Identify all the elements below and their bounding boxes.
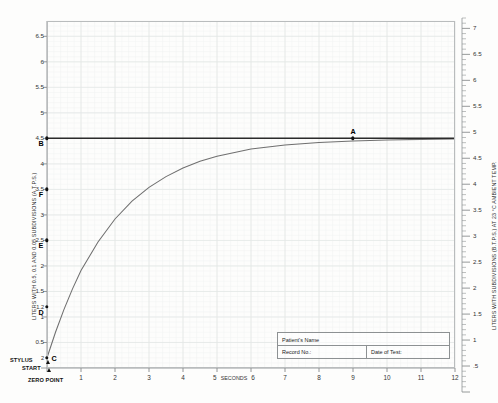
date-of-test-field[interactable]: Date of Test:	[367, 346, 449, 359]
form-row-name: Patient's Name	[278, 333, 449, 346]
record-no-field[interactable]: Record No.:	[278, 346, 367, 359]
data-point-e	[45, 239, 48, 242]
data-point-f	[45, 188, 48, 191]
data-point-label-a: A	[350, 127, 355, 136]
data-point-b	[45, 137, 48, 140]
patient-name-field[interactable]: Patient's Name	[278, 333, 449, 345]
data-point-d	[45, 305, 48, 308]
data-point-label-e: E	[39, 241, 44, 250]
stylus-arrow-icon	[38, 352, 60, 374]
data-point-label-b: B	[38, 139, 43, 148]
stylus-label: STYLUS	[10, 357, 33, 363]
form-row-record: Record No.: Date of Test:	[278, 346, 449, 359]
patient-form-box[interactable]: Patient's Name Record No.: Date of Test:	[277, 332, 450, 359]
data-point-label-f: F	[39, 190, 43, 199]
zero-point-label: ZERO POINT	[28, 377, 63, 383]
chart-sheet: 6.565.554.543.532.521.510.51.22 76.565.5…	[0, 0, 498, 403]
data-point-a	[351, 137, 354, 140]
data-point-label-d: D	[38, 308, 43, 317]
